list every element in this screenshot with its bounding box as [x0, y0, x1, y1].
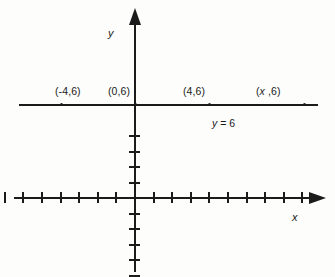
- y-axis-tick: [129, 213, 140, 215]
- y-axis-tick: [129, 259, 140, 261]
- x-axis-tick: [78, 192, 80, 203]
- point-marker: [134, 103, 137, 106]
- x-axis-tick: [246, 192, 248, 203]
- x-axis-tick: [301, 192, 303, 203]
- point-label-y-value: ,6): [68, 85, 81, 97]
- point-label-x-value: -4: [59, 85, 69, 97]
- point-label-y-value: ,6): [118, 85, 131, 97]
- x-axis-tick: [227, 192, 229, 203]
- x-axis-tick: [97, 192, 99, 203]
- x-axis-tick: [190, 192, 192, 203]
- x-axis-tick: [41, 192, 43, 203]
- x-axis-tick: [171, 192, 173, 203]
- x-axis-tick: [264, 192, 266, 203]
- y-axis-tick: [129, 244, 140, 246]
- x-axis-tick: [22, 192, 24, 203]
- y-axis-tick: [129, 166, 140, 168]
- coordinate-plane-figure: (-4,6)(0,6)(4,6)(x ,6) y = 6 y x: [0, 0, 335, 277]
- y-axis-line: [134, 22, 136, 272]
- y-axis-tick: [129, 275, 140, 277]
- point-label: (-4,6): [55, 86, 81, 97]
- x-axis-tick: [4, 192, 6, 203]
- point-label-y-value: ,6): [265, 85, 281, 97]
- point-label: (0,6): [108, 86, 130, 97]
- x-axis-line: [14, 197, 311, 199]
- point-marker: [60, 103, 63, 106]
- x-axis-arrow-icon: [309, 192, 326, 204]
- y-axis-tick: [129, 151, 140, 153]
- x-axis-tick: [60, 192, 62, 203]
- y-axis-arrow-icon: [129, 8, 141, 25]
- y-axis-tick: [129, 135, 140, 137]
- line-y-equals-6: [19, 104, 318, 106]
- x-axis-tick: [283, 192, 285, 203]
- equation-label: y = 6: [212, 118, 235, 129]
- point-label: (4,6): [183, 86, 205, 97]
- y-axis-label: y: [108, 28, 114, 39]
- x-axis-tick: [115, 192, 117, 203]
- point-label-y-value: ,6): [193, 85, 206, 97]
- equation-rhs: = 6: [217, 117, 235, 129]
- x-axis-tick: [153, 192, 155, 203]
- x-axis-label: x: [292, 212, 298, 223]
- y-axis-tick: [129, 228, 140, 230]
- point-label: (x ,6): [256, 86, 281, 97]
- y-axis-tick: [129, 182, 140, 184]
- x-axis-tick: [208, 192, 210, 203]
